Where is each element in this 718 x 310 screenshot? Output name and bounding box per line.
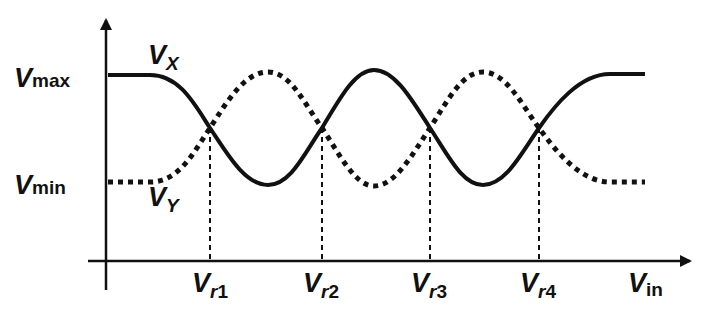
label-vin: Vin — [628, 268, 663, 300]
label-vr2: Vr2 — [303, 268, 339, 302]
label-vmin: Vmin — [14, 170, 66, 200]
curve-vy — [108, 72, 645, 186]
label-vr1: Vr1 — [192, 268, 228, 302]
crossing-guides — [210, 128, 539, 261]
folding-transfer-diagram: Vmax Vmin VX VY Vr1 Vr2 Vr3 Vr4 Vin — [0, 0, 718, 310]
label-vr4: Vr4 — [520, 268, 556, 302]
curve-vx — [108, 70, 645, 185]
label-vr3: Vr3 — [411, 268, 447, 302]
label-vmax: Vmax — [14, 63, 70, 93]
label-vy: VY — [148, 182, 181, 216]
label-vx: VX — [148, 40, 180, 74]
